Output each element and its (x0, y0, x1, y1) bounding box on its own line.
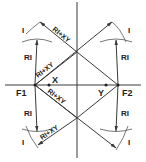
point-y (105, 84, 108, 87)
label-ri-top-left: RI (24, 53, 32, 62)
ri-arrow-bottom-right (116, 85, 118, 131)
ellipse-construction-diagram: F1 F2 X Y I I I I RI RI RI RI RI+XY RI+X… (0, 0, 146, 162)
ri-arrow-bottom-left (35, 85, 37, 131)
label-y: Y (98, 88, 104, 98)
label-ri-xy-top-diagonal: RI+XY (51, 25, 72, 44)
label-f1: F1 (16, 88, 27, 98)
label-f2: F2 (122, 88, 133, 98)
label-i-bottom-left: I (22, 138, 24, 147)
point-x (48, 84, 51, 87)
rhombus-edge-top-f2 (77, 52, 118, 85)
focus-f1 (34, 84, 37, 87)
arc-top-left-slant (26, 22, 40, 34)
diagonal-top-right (35, 22, 112, 85)
label-x: X (52, 75, 58, 85)
ri-arrow-top-left (35, 40, 37, 85)
arc-bottom-right-slant (116, 126, 128, 150)
label-ri-top-right: RI (121, 53, 129, 62)
label-ri-bottom-right: RI (121, 109, 129, 118)
label-ri-bottom-left: RI (24, 109, 32, 118)
arc-bottom-left-slant (26, 126, 38, 148)
label-i-top-right: I (128, 26, 130, 35)
ri-arrow-top-right (116, 40, 118, 85)
label-i-top-left: I (22, 26, 24, 35)
focus-f2 (117, 84, 120, 87)
label-i-bottom-right: I (128, 138, 130, 147)
